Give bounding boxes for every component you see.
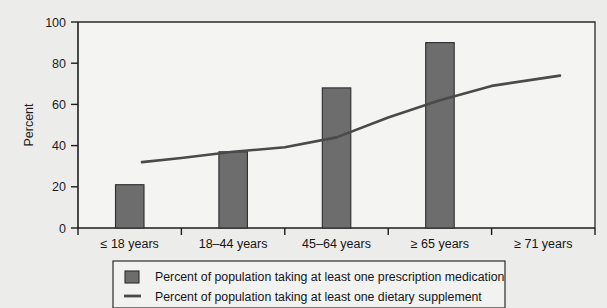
chart-legend: Percent of population taking at least on… [113,261,505,308]
y-tick-label-80: 80 [52,57,66,71]
x-tick-label-4: ≥ 71 years [514,237,572,251]
y-tick-label-100: 100 [45,16,66,30]
bar-ge-65-years [426,43,455,228]
x-axis-ticks [78,228,595,235]
y-tick-label-40: 40 [52,139,66,153]
y-axis-ticks [71,22,78,228]
bar-18-44-years [219,152,248,228]
x-tick-label-2: 45–64 years [302,237,371,251]
x-tick-label-1: 18–44 years [199,237,268,251]
y-tick-label-60: 60 [52,98,66,112]
y-axis-title: Percent [22,103,36,147]
legend-label-prescription: Percent of population taking at least on… [155,270,504,284]
chart-figure: 0 20 40 60 80 100 Percent ≤ 18 years 18–… [0,0,607,308]
legend-label-supplement: Percent of population taking at least on… [155,290,482,304]
x-tick-label-0: ≤ 18 years [101,237,159,251]
percent-medication-supplement-chart: 0 20 40 60 80 100 Percent ≤ 18 years 18–… [0,0,607,308]
x-tick-label-3: ≥ 65 years [411,237,469,251]
legend-swatch-icon-prescription [125,271,139,283]
y-tick-label-20: 20 [52,180,66,194]
bar-le-18-years [116,185,145,228]
y-tick-label-0: 0 [59,222,66,236]
bar-45-64-years [322,88,351,228]
